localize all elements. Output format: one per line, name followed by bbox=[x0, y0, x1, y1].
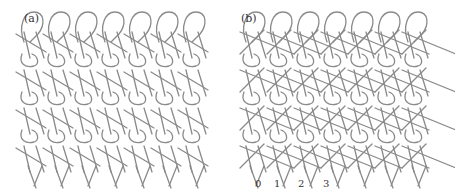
panel-label-a: (a) bbox=[24, 12, 39, 25]
knit-structure-b bbox=[228, 0, 455, 196]
panel-label-b: (b) bbox=[241, 12, 257, 25]
needle-label-2: 2 bbox=[298, 178, 304, 189]
panel-b: (b) 0 1 2 3 bbox=[228, 0, 455, 196]
needle-label-3: 3 bbox=[323, 178, 329, 189]
needle-label-0: 0 bbox=[255, 178, 261, 189]
knit-structure-a bbox=[0, 0, 228, 196]
needle-label-1: 1 bbox=[274, 178, 280, 189]
panel-a: (a) bbox=[0, 0, 228, 196]
